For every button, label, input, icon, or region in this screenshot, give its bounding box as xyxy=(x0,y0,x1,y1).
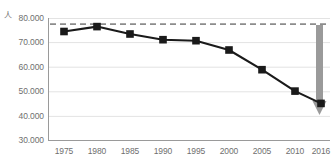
data-point-markers xyxy=(60,23,325,107)
y-tick-label-70000: 70.000 xyxy=(19,38,44,47)
axis-lines xyxy=(48,18,330,141)
x-tick-label-2010: 2010 xyxy=(286,147,305,156)
x-tick-label-1995: 1995 xyxy=(187,147,206,156)
x-tick-label-1990: 1990 xyxy=(154,147,173,156)
plot-area xyxy=(48,18,330,141)
y-tick-label-80000: 80.000 xyxy=(19,14,44,23)
y-tick-label-30000: 30.000 xyxy=(19,136,44,145)
x-tick-label-1985: 1985 xyxy=(121,147,140,156)
y-tick-label-50000: 50.000 xyxy=(19,87,44,96)
y-tick-label-60000: 60.000 xyxy=(19,63,44,72)
y-tick-label-40000: 40.000 xyxy=(19,112,44,121)
x-tick-label-1975: 1975 xyxy=(55,147,74,156)
gridlines xyxy=(48,19,330,117)
x-tick-label-2005: 2005 xyxy=(253,147,272,156)
population-decline-line-chart: 人 80.000 70.000 60.000 50.000 40.000 30.… xyxy=(0,0,336,166)
x-tick-label-2000: 2000 xyxy=(220,147,239,156)
y-axis-tick-labels: 80.000 70.000 60.000 50.000 40.000 30.00… xyxy=(0,0,44,166)
x-tick-label-2016: 2016 xyxy=(312,147,331,156)
x-tick-label-1980: 1980 xyxy=(88,147,107,156)
